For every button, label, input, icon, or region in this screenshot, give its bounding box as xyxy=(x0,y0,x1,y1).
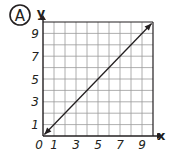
y-tick-label: 1 xyxy=(31,118,39,132)
chart: A 1357913579 y x 0 xyxy=(0,0,169,150)
y-axis-label: y xyxy=(37,5,46,20)
badge: A xyxy=(10,5,30,25)
y-tick-label: 3 xyxy=(31,95,39,109)
badge-label: A xyxy=(15,7,26,25)
y-tick-label: 9 xyxy=(31,27,39,41)
x-tick-label: 5 xyxy=(94,138,102,150)
x-tick-label: 3 xyxy=(72,138,80,150)
x-axis-label: x xyxy=(157,128,166,143)
y-tick-label: 7 xyxy=(31,50,39,64)
x-tick-label: 1 xyxy=(50,138,58,150)
x-tick-label: 9 xyxy=(138,138,146,150)
y-tick-label: 5 xyxy=(31,73,39,87)
x-tick-label: 7 xyxy=(116,138,124,150)
origin-label: 0 xyxy=(35,138,43,150)
